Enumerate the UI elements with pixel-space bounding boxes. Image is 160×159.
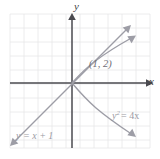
curve-parabola-y-squared-equals-4x [72,36,136,138]
graph-figure: y x (1, 2) y2= 4x y = x + 1 [0,0,160,159]
y-axis-label: y [74,1,79,12]
x-axis-label: x [149,76,154,87]
grid-lines [10,14,150,148]
parabola-equation-label: y2= 4x [112,110,140,121]
line-equation-label: y = x + 1 [16,131,53,141]
intersection-point-label: (1, 2) [89,59,112,70]
parabola-lower-branch [72,83,130,133]
x-axis [10,79,154,87]
curve-line-y-equals-x-plus-1 [10,25,131,146]
parabola-equation-rest: = 4x [120,110,141,121]
